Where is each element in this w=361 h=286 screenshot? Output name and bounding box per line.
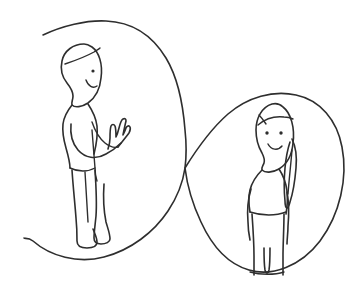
figure-left-head xyxy=(61,44,101,107)
figure-left-waist xyxy=(70,168,95,171)
infinity-loop-left-lobe xyxy=(24,21,186,260)
illustration-canvas: Two people standing inside an infinity l… xyxy=(0,0,361,286)
infinity-loop xyxy=(24,21,344,272)
figure-right-waist xyxy=(250,212,286,215)
figure-left-mouth xyxy=(86,80,97,87)
figure-right-head xyxy=(256,104,294,173)
figure-right-torso-right xyxy=(279,169,287,214)
line-drawing xyxy=(0,0,361,286)
figure-left-eye xyxy=(91,69,94,72)
figure-left-leg-front xyxy=(94,170,110,244)
figure-left-torso-back xyxy=(63,105,72,168)
figure-right-leg-gap xyxy=(264,248,270,273)
figure-right-leg-left xyxy=(252,214,254,275)
figure-right-eye-left xyxy=(265,131,268,134)
figure-right-mouth xyxy=(268,144,282,149)
figure-right xyxy=(248,104,297,275)
figure-left-hand xyxy=(108,119,130,149)
figure-right-arm-left xyxy=(248,189,251,240)
figure-left xyxy=(61,44,130,248)
figure-right-leg-right xyxy=(283,214,284,275)
figure-left-leg-seam xyxy=(85,172,88,222)
figure-right-eye-right xyxy=(279,131,282,134)
